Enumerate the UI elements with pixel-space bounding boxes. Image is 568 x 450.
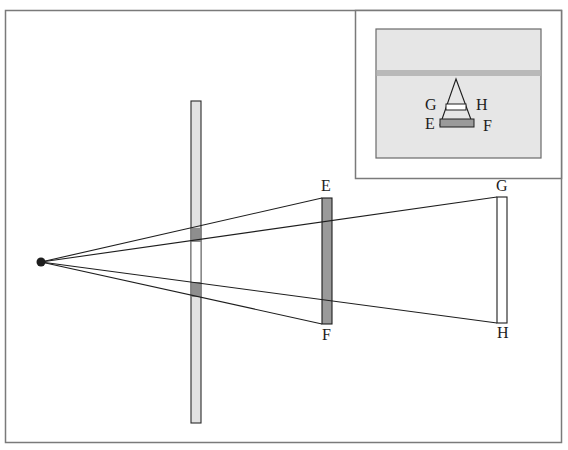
near-object-EF [322, 198, 332, 324]
inset-label-F: F [483, 117, 492, 134]
screen-projection-lower [192, 282, 201, 297]
inset-label-G: G [425, 96, 437, 113]
eye-point [37, 258, 46, 267]
inset-panel: G H E F [356, 11, 562, 179]
inset-view [376, 29, 541, 158]
screen-plane [191, 101, 201, 423]
label-E: E [321, 177, 331, 194]
label-G: G [496, 177, 508, 194]
screen-clear-section [192, 242, 201, 282]
inset-label-E: E [425, 115, 435, 132]
label-H: H [497, 324, 509, 341]
inset-far-object-GH [446, 104, 466, 110]
inset-screen-band [377, 70, 541, 76]
label-F: F [322, 326, 331, 343]
far-object-GH [497, 197, 507, 323]
inset-near-object-EF [440, 119, 474, 127]
diagram-canvas: G H E F E F G H [0, 0, 568, 450]
inset-label-H: H [476, 96, 488, 113]
